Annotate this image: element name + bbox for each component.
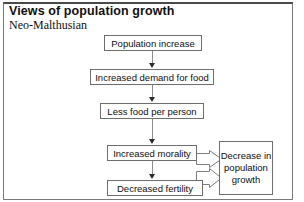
flow-node-decrease-in-population-growth[interactable]: Decrease in population growth <box>219 141 273 195</box>
arrow-down-icon <box>149 63 155 68</box>
connector-morality-to-fertility <box>152 161 153 175</box>
arrow-down-icon <box>149 174 155 179</box>
figure-root: Views of population growth Neo-Malthusia… <box>0 0 304 202</box>
flow-node-increased-morality[interactable]: Increased morality <box>107 145 197 161</box>
arrow-down-icon <box>149 139 155 144</box>
arrow-down-icon <box>149 97 155 102</box>
flow-node-population-increase[interactable]: Population increase <box>104 35 202 51</box>
connector-lessfood-to-morality <box>152 119 153 140</box>
flow-node-less-food-per-person[interactable]: Less food per person <box>100 103 204 119</box>
page-title: Views of population growth <box>9 4 175 18</box>
flow-node-decreased-fertility[interactable]: Decreased fertility <box>107 180 203 196</box>
figure-subtitle: Neo-Malthusian <box>9 18 87 33</box>
flow-node-increased-demand-for-food[interactable]: Increased demand for food <box>90 69 214 85</box>
